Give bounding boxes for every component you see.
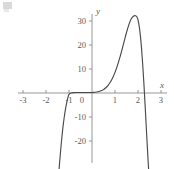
x-tick-label-3: 3 bbox=[159, 95, 163, 105]
axis-name-labels: y x bbox=[95, 6, 165, 90]
x-tick-label-2: 2 bbox=[136, 95, 140, 105]
y-tick-labels: 30 20 10 -10 -20 bbox=[75, 16, 86, 146]
y-tick-label-20: 20 bbox=[77, 40, 86, 50]
scan-artifact-smudge-secondary bbox=[4, 9, 9, 12]
x-tick-label-0: 0 bbox=[80, 95, 84, 105]
x-tick-labels: -3 -2 -1 0 1 2 3 bbox=[19, 95, 163, 105]
plot-area: -3 -2 -1 0 1 2 3 30 20 10 -10 -20 y x bbox=[0, 0, 174, 169]
y-tick-label-10: 10 bbox=[77, 64, 86, 74]
x-tick-label--3: -3 bbox=[19, 95, 26, 105]
x-tick-label--2: -2 bbox=[42, 95, 49, 105]
y-tick-label-30: 30 bbox=[77, 16, 86, 26]
y-axis-label: y bbox=[95, 6, 101, 16]
function-curve bbox=[59, 16, 150, 169]
y-tick-label--10: -10 bbox=[75, 112, 86, 122]
y-tick-label--20: -20 bbox=[75, 136, 86, 146]
x-axis-label: x bbox=[159, 80, 165, 90]
scan-artifact-smudge bbox=[3, 2, 12, 9]
chart-figure: -3 -2 -1 0 1 2 3 30 20 10 -10 -20 y x bbox=[0, 0, 174, 169]
x-tick-label-1: 1 bbox=[113, 95, 117, 105]
